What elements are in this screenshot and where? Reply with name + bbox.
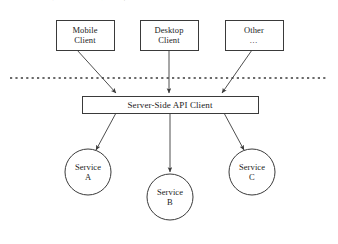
desktop-client-box[interactable] [141,21,199,51]
diagram-canvas [0,0,338,244]
other-client-box[interactable] [226,21,284,51]
service-b-circle[interactable] [147,174,193,220]
arrow-mobile-to-server [77,50,116,93]
mobile-client-box[interactable] [57,21,115,51]
service-a-circle[interactable] [65,149,111,195]
arrow-other-to-server [222,50,252,93]
service-c-circle[interactable] [229,149,275,195]
arrow-server-to-service-c [224,113,244,150]
arrow-server-to-service-a [96,113,116,150]
architecture-diagram: 图２－４ 服务端 API 客户端架构示意图 MobileClientDeskto… [0,0,338,244]
server-side-api-client-box[interactable] [83,97,259,114]
